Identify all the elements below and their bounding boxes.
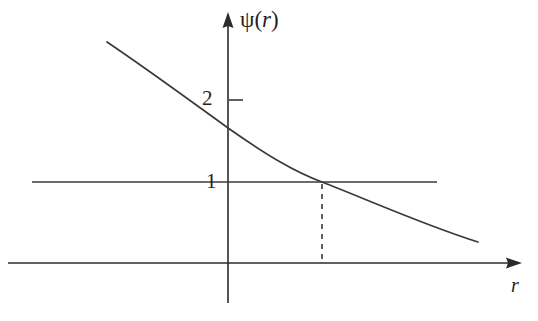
y-axis-arrowhead (223, 12, 234, 28)
y-axis-label-psi-open: ψ( (240, 7, 262, 32)
y-axis-label-variable: r (262, 7, 271, 32)
psi-curve (107, 42, 478, 242)
y-axis-group (223, 12, 234, 303)
y-axis-label: ψ(r) (240, 8, 279, 31)
y-tick-label-2: 2 (202, 88, 213, 109)
plot-svg (0, 0, 538, 321)
y-tick-label-1: 1 (206, 171, 217, 192)
x-axis-group (8, 258, 522, 269)
figure-canvas: ψ(r) r 2 1 (0, 0, 538, 321)
x-axis-arrowhead (506, 258, 522, 269)
x-axis-label: r (511, 275, 519, 295)
y-axis-label-close-paren: ) (271, 7, 279, 32)
